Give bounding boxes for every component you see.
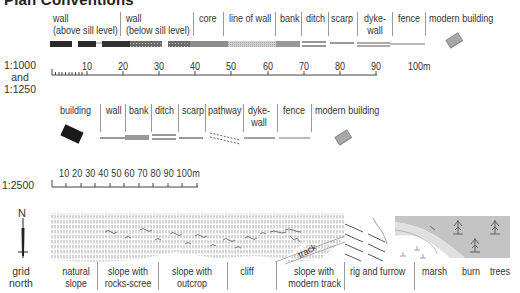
scale-bar-1000 [0, 55, 520, 85]
label-trees: trees [490, 265, 510, 277]
separator [276, 262, 277, 290]
label-cliff: cliff [238, 265, 257, 277]
label-rig-furrow: rig and furrow [350, 265, 405, 277]
north-arrow-icon [14, 218, 34, 268]
tick-label: 50 [226, 60, 236, 72]
separator [158, 262, 159, 290]
tick-label: 30 [154, 60, 164, 72]
separator [414, 262, 415, 290]
separator [97, 262, 98, 290]
legend-symbols-row-1 [0, 0, 520, 60]
label-burn: burn [462, 265, 480, 277]
tick-label: 40 [190, 60, 200, 72]
tick-label: 90 [371, 60, 381, 72]
label-slope-outcrop: slope withoutcrop [169, 265, 215, 289]
tick-label: 10 [82, 60, 92, 72]
legend-symbols-row-2 [0, 100, 520, 160]
tick-label: 60 [263, 60, 273, 72]
separator [344, 262, 345, 290]
tick-label: 80 [335, 60, 345, 72]
label-marsh: marsh [422, 265, 447, 277]
label-slope-modern-track: slope withmodern track [288, 265, 340, 289]
scale-bar-2500 [0, 172, 520, 192]
tick-label: 70 [299, 60, 309, 72]
tick-label: 100m [408, 60, 431, 72]
label-grid-north: gridnorth [4, 265, 38, 289]
terrain-illustration: track [45, 210, 515, 270]
label-slope-rocks-scree: slope withrocks-scree [104, 265, 152, 289]
tick-label: 20 [118, 60, 128, 72]
separator [227, 262, 228, 290]
label-natural-slope: naturalslope [59, 265, 93, 289]
